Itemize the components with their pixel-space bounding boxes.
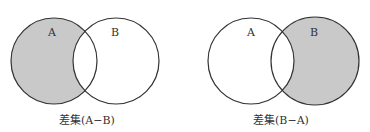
label-a: A — [47, 26, 57, 39]
label-a: A — [246, 26, 256, 39]
label-b: B — [111, 26, 119, 39]
caption-b-minus-a: 差集(B−A) — [253, 113, 309, 127]
venn-diagram-a-minus-b: A B 差集(A−B) — [11, 18, 159, 127]
caption-a-minus-b: 差集(A−B) — [59, 113, 115, 127]
venn-diagrams: A B 差集(A−B) A B 差集(B−A) — [0, 0, 370, 132]
label-b: B — [310, 26, 318, 39]
venn-diagram-b-minus-a: A B 差集(B−A) — [208, 17, 359, 127]
